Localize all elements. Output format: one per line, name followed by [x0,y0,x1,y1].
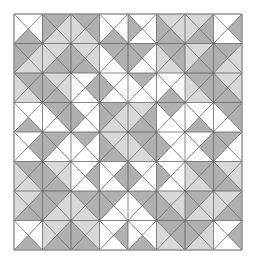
gridline-layer [14,14,242,250]
quilt-pattern-svg [0,0,256,262]
quilt-figure [0,0,256,262]
